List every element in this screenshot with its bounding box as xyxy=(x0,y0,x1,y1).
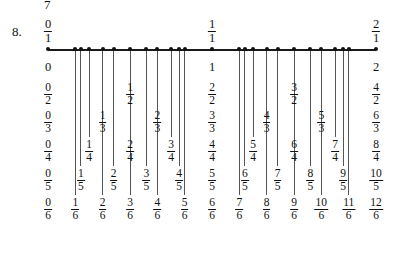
fraction-denominator: 5 xyxy=(77,180,85,193)
fraction-denominator: 3 xyxy=(44,122,52,135)
fraction: 86 xyxy=(263,197,271,222)
fraction: 01 xyxy=(44,18,52,45)
fraction-label: 33 xyxy=(208,110,216,135)
fraction-denominator: 3 xyxy=(208,122,216,135)
leader-line xyxy=(348,51,349,195)
fraction: 66 xyxy=(208,197,216,222)
fraction-label: 32 xyxy=(290,82,298,107)
fraction-denominator: 4 xyxy=(85,151,93,164)
fraction-denominator: 3 xyxy=(99,122,107,135)
fraction-denominator: 5 xyxy=(274,180,282,193)
fraction-numerator: 4 xyxy=(175,168,183,180)
whole-number: 2 xyxy=(373,60,379,74)
fraction-label: 34 xyxy=(167,139,175,164)
fraction-denominator: 4 xyxy=(331,151,339,164)
fraction-denominator: 3 xyxy=(263,122,271,135)
fraction: 74 xyxy=(331,139,339,164)
fraction-numerator: 1 xyxy=(85,139,93,151)
fraction: 34 xyxy=(167,139,175,164)
fraction-numerator: 4 xyxy=(153,197,161,209)
fraction-numerator: 5 xyxy=(249,139,257,151)
fraction-label: 126 xyxy=(369,197,383,222)
fraction-label: 12 xyxy=(126,82,134,107)
fraction-numerator: 7 xyxy=(235,197,243,209)
fraction: 23 xyxy=(153,110,161,135)
fraction: 11 xyxy=(208,18,216,45)
fraction: 33 xyxy=(208,110,216,135)
fraction-label: 22 xyxy=(208,82,216,107)
whole-number-label: 1 xyxy=(209,57,215,75)
fraction-label: 65 xyxy=(241,168,249,193)
leader-line xyxy=(130,51,131,80)
fraction-label: 36 xyxy=(126,197,134,222)
fraction-numerator: 2 xyxy=(372,18,380,31)
fraction: 45 xyxy=(175,168,183,193)
whole-number-label: 2 xyxy=(373,57,379,75)
fraction-numerator: 5 xyxy=(317,110,325,122)
fraction-numerator: 4 xyxy=(372,82,380,94)
fraction-label: 54 xyxy=(249,139,257,164)
fraction-label: 01 xyxy=(44,18,52,45)
fraction-numerator: 2 xyxy=(99,197,107,209)
fraction: 21 xyxy=(372,18,380,45)
fraction-label: 55 xyxy=(208,168,216,193)
leader-line xyxy=(335,51,336,137)
fraction-numerator: 0 xyxy=(44,139,52,151)
fraction-label: 56 xyxy=(181,197,189,222)
whole-number-label: 0 xyxy=(45,57,51,75)
fraction-numerator: 2 xyxy=(110,168,118,180)
fraction-label: 86 xyxy=(263,197,271,222)
fraction-denominator: 5 xyxy=(143,180,151,193)
fraction-numerator: 3 xyxy=(290,82,298,94)
fraction-label: 43 xyxy=(263,110,271,135)
fraction-label: 95 xyxy=(339,168,347,193)
fraction-numerator: 6 xyxy=(241,168,249,180)
leader-line xyxy=(179,51,180,166)
fraction-numerator: 10 xyxy=(315,197,329,209)
fraction-denominator: 6 xyxy=(369,209,383,222)
fraction-numerator: 3 xyxy=(208,110,216,122)
fraction: 03 xyxy=(44,110,52,135)
fraction-denominator: 3 xyxy=(372,122,380,135)
fraction-label: 53 xyxy=(317,110,325,135)
leader-line xyxy=(294,51,295,195)
fraction-denominator: 6 xyxy=(99,209,107,222)
item-number: 8. xyxy=(12,25,22,38)
fraction-denominator: 6 xyxy=(126,209,134,222)
fraction: 76 xyxy=(235,197,243,222)
fraction: 36 xyxy=(126,197,134,222)
fraction-denominator: 6 xyxy=(71,209,79,222)
whole-number: 0 xyxy=(45,60,51,74)
fraction-denominator: 6 xyxy=(153,209,161,222)
fraction-numerator: 5 xyxy=(208,168,216,180)
fraction-numerator: 1 xyxy=(77,168,85,180)
fraction-label: 74 xyxy=(331,139,339,164)
fraction: 65 xyxy=(241,168,249,193)
fraction-label: 76 xyxy=(235,197,243,222)
fraction-denominator: 6 xyxy=(263,209,271,222)
endpoint-tick-dot xyxy=(374,47,378,51)
fraction-label: 106 xyxy=(315,197,329,222)
fraction-numerator: 12 xyxy=(369,197,383,209)
fraction-numerator: 1 xyxy=(99,110,107,122)
endpoint-tick-dot xyxy=(210,47,214,51)
endpoint-tick-dot xyxy=(46,47,50,51)
fraction-denominator: 6 xyxy=(315,209,329,222)
fraction-denominator: 2 xyxy=(208,94,216,107)
fraction: 95 xyxy=(339,168,347,193)
fraction-label: 63 xyxy=(372,110,380,135)
fraction-denominator: 1 xyxy=(372,31,380,45)
leader-line xyxy=(310,51,311,166)
fraction-denominator: 4 xyxy=(167,151,175,164)
fraction-numerator: 3 xyxy=(126,197,134,209)
fraction: 54 xyxy=(249,139,257,164)
fraction-label: 66 xyxy=(208,197,216,222)
fraction-label: 05 xyxy=(44,168,52,193)
fraction-label: 04 xyxy=(44,139,52,164)
fraction-numerator: 10 xyxy=(369,168,383,180)
fraction-numerator: 4 xyxy=(263,110,271,122)
fraction: 35 xyxy=(143,168,151,193)
leader-line xyxy=(89,51,90,137)
fraction: 24 xyxy=(126,139,134,164)
fraction-numerator: 2 xyxy=(126,139,134,151)
